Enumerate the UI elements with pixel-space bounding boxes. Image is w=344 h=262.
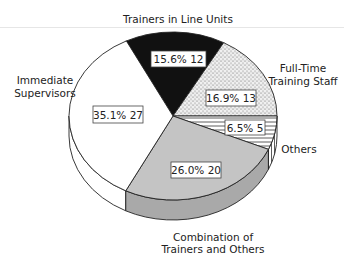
- value-box-fulltime: 16.9% 13: [206, 90, 256, 106]
- value-box-others: 6.5% 5: [225, 120, 265, 135]
- pie-chart: 15.6% 12 16.9% 13 6.5% 5 26.0% 20 35.1% …: [0, 0, 344, 262]
- label-immediate-1: Immediate: [17, 74, 74, 86]
- value-box-combination: 26.0% 20: [171, 162, 221, 178]
- value-others: 6.5% 5: [227, 122, 264, 134]
- value-immediate: 35.1% 27: [93, 109, 143, 121]
- value-box-line-units: 15.6% 12: [151, 51, 206, 67]
- label-full-time-1: Full-Time: [280, 62, 326, 74]
- label-others: Others: [281, 143, 316, 155]
- value-combination: 26.0% 20: [171, 164, 221, 176]
- value-fulltime: 16.9% 13: [206, 92, 256, 104]
- label-combination-1: Combination of: [173, 231, 254, 243]
- label-full-time-2: Training Staff: [267, 75, 338, 87]
- value-line-units: 15.6% 12: [153, 53, 203, 65]
- label-combination-2: Trainers and Others: [160, 243, 264, 255]
- value-box-immediate: 35.1% 27: [93, 106, 143, 123]
- label-trainers-in-line-units: Trainers in Line Units: [122, 13, 233, 25]
- label-immediate-2: Supervisors: [14, 87, 76, 99]
